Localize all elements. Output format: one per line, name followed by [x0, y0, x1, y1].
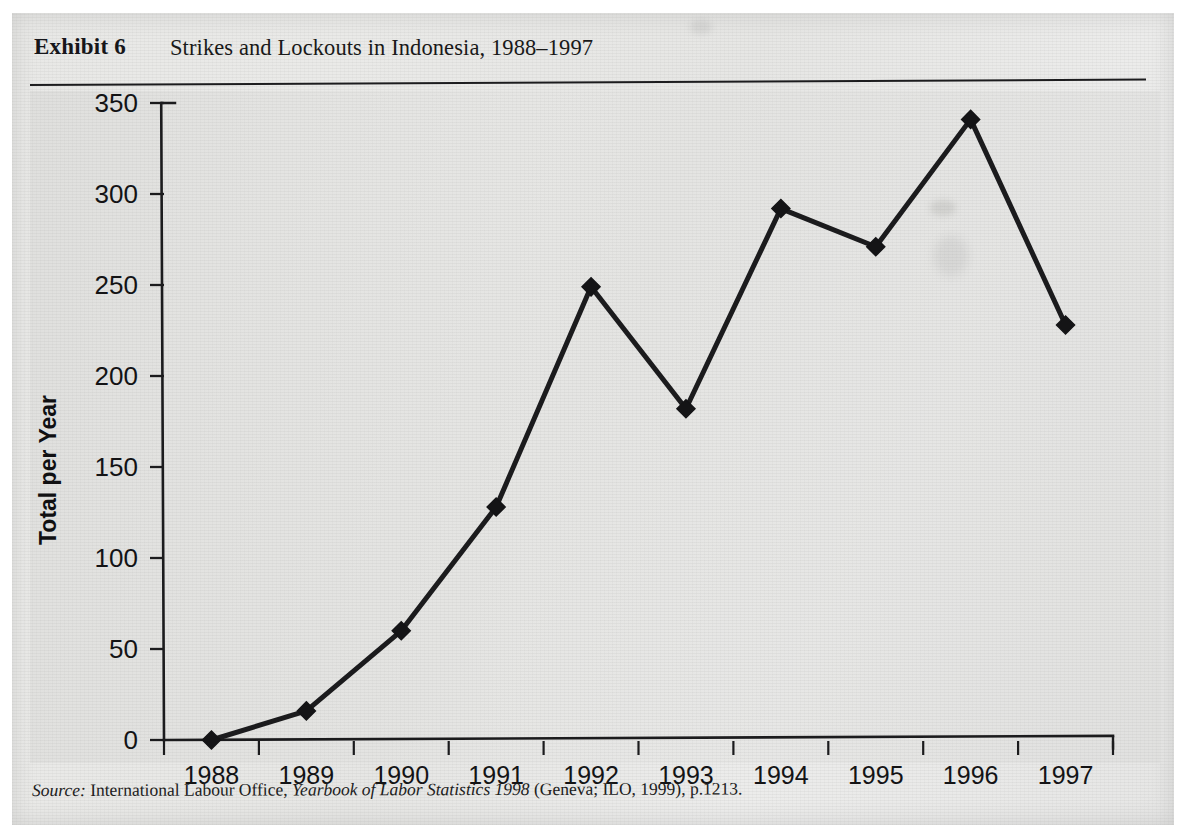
exhibit-number-label: Exhibit 6 — [34, 34, 126, 60]
source-publisher: International Labour Office, — [90, 779, 287, 799]
source-work-title: Yearbook of Labor Statistics 1998 — [292, 779, 530, 799]
figure-title-band: Exhibit 6 Strikes and Lockouts in Indone… — [34, 34, 1146, 74]
scanned-figure-page: Exhibit 6 Strikes and Lockouts in Indone… — [0, 0, 1192, 839]
figure-title-text: Strikes and Lockouts in Indonesia, 1988–… — [170, 35, 593, 61]
paper-grain — [12, 13, 1174, 825]
source-note: Source: International Labour Office, Yea… — [32, 778, 1132, 801]
paper-sheet — [12, 13, 1174, 825]
plot-field-tint — [30, 91, 1160, 763]
source-tail: (Geneva; ILO, 1999), p.1213. — [534, 779, 743, 799]
source-lead-label: Source: — [32, 780, 86, 800]
